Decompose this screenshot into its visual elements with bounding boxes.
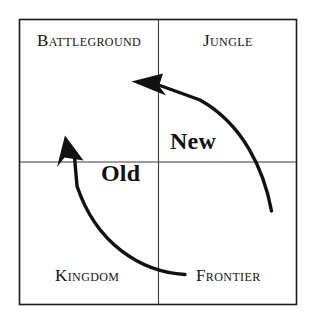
axis-label-old: Old — [101, 161, 140, 185]
axis-label-new: New — [170, 129, 216, 153]
matrix-diagram: Battleground Jungle Kingdom Frontier New… — [0, 0, 314, 321]
quadrant-label-jungle: Jungle — [203, 32, 253, 49]
quadrant-label-kingdom: Kingdom — [55, 267, 119, 284]
quadrant-label-battleground: Battleground — [37, 32, 141, 49]
quadrant-label-frontier: Frontier — [196, 267, 261, 284]
